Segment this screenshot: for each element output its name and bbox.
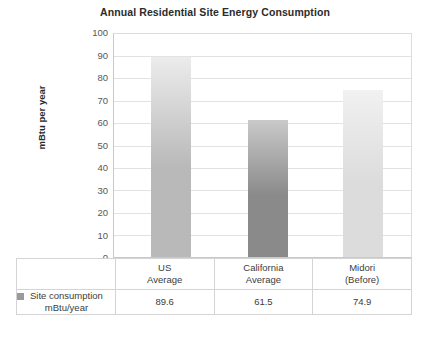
value-california-average: 61.5 [214, 290, 313, 315]
chart-title: Annual Residential Site Energy Consumpti… [0, 6, 430, 18]
category-line-2: (Before) [313, 274, 411, 286]
value-midori-before: 74.9 [313, 290, 412, 315]
y-axis-tick-labels: 100 90 80 70 60 50 40 30 20 10 0 [73, 33, 108, 258]
data-table: US Average California Average Midori (Be… [16, 258, 412, 315]
table-row-categories: US Average California Average Midori (Be… [17, 259, 412, 290]
category-line-1: US [116, 262, 214, 274]
category-line-1: Midori [313, 262, 411, 274]
y-tick-50: 50 [73, 141, 108, 151]
y-tick-60: 60 [73, 118, 108, 128]
table-corner-blank [17, 259, 116, 290]
legend-entry-site-consumption: Site consumption mBtu/year [17, 290, 116, 315]
y-tick-100: 100 [73, 28, 108, 38]
category-line-2: Average [215, 274, 313, 286]
y-tick-40: 40 [73, 163, 108, 173]
y-tick-70: 70 [73, 96, 108, 106]
legend-label-line-1: Site consumption [30, 290, 103, 302]
y-tick-20: 20 [73, 208, 108, 218]
legend-label-line-2: mBtu/year [30, 302, 103, 314]
y-tick-80: 80 [73, 73, 108, 83]
y-tick-10: 10 [73, 231, 108, 241]
category-header-california-average: California Average [214, 259, 313, 290]
legend-label: Site consumption mBtu/year [30, 290, 103, 314]
category-line-1: California [215, 262, 313, 274]
value-us-average: 89.6 [115, 290, 214, 315]
bar-chart-figure: Annual Residential Site Energy Consumpti… [0, 0, 430, 346]
y-axis-title: mBtu per year [36, 58, 47, 178]
plot-area [113, 33, 412, 258]
y-tick-90: 90 [73, 51, 108, 61]
bar-us-average[interactable] [151, 57, 191, 257]
bar-california-average[interactable] [248, 120, 288, 257]
table-row-values: Site consumption mBtu/year 89.6 61.5 74.… [17, 290, 412, 315]
category-line-2: Average [116, 274, 214, 286]
category-header-us-average: US Average [115, 259, 214, 290]
bar-midori-before[interactable] [343, 90, 383, 257]
y-tick-30: 30 [73, 186, 108, 196]
legend-swatch-icon [17, 293, 24, 300]
category-header-midori-before: Midori (Before) [313, 259, 412, 290]
